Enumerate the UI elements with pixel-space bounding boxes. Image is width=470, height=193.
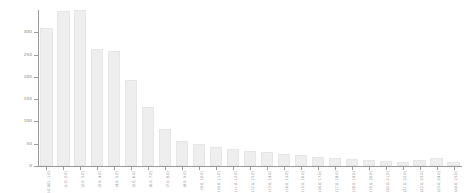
bar bbox=[108, 51, 120, 166]
x-axis-tick-label: (10.0, 11.0] bbox=[218, 171, 222, 192]
bar bbox=[312, 157, 324, 166]
bar bbox=[176, 141, 188, 166]
y-axis-tick-label: 50 bbox=[12, 142, 32, 146]
x-axis-tick-label: (17.0, 18.0] bbox=[336, 171, 340, 192]
x-axis-tick-label: (-0.001, 1.0] bbox=[48, 171, 52, 193]
y-axis-tick-label: 150 bbox=[12, 97, 32, 101]
y-axis-tick bbox=[34, 166, 38, 167]
x-axis-tick bbox=[284, 167, 285, 170]
x-axis-tick bbox=[267, 167, 268, 170]
x-axis-tick bbox=[335, 167, 336, 170]
bar bbox=[380, 161, 392, 166]
bar bbox=[40, 28, 52, 166]
x-axis-tick bbox=[46, 167, 47, 170]
x-axis-tick-label: (5.0, 6.0] bbox=[133, 171, 137, 188]
x-axis-tick-label: (19.0, 20.0] bbox=[370, 171, 374, 192]
bar bbox=[261, 152, 273, 166]
x-axis-tick bbox=[437, 167, 438, 170]
y-axis-tick-label: 250 bbox=[12, 53, 32, 57]
bar bbox=[295, 155, 307, 166]
x-axis-tick-label: (3.0, 4.0] bbox=[99, 171, 103, 188]
x-axis-tick bbox=[454, 167, 455, 170]
bar bbox=[125, 80, 137, 166]
x-axis-tick bbox=[369, 167, 370, 170]
x-axis-tick bbox=[420, 167, 421, 170]
x-axis-tick bbox=[250, 167, 251, 170]
x-axis-tick-label: (22.0, 23.0] bbox=[421, 171, 425, 192]
x-axis-tick bbox=[301, 167, 302, 170]
x-axis-tick-label: (8.0, 9.0] bbox=[184, 171, 188, 188]
x-axis-tick-label: (13.0, 14.0] bbox=[269, 171, 273, 192]
x-axis-tick-label: (16.0, 17.0] bbox=[319, 171, 323, 192]
y-axis-tick-label: 200 bbox=[12, 75, 32, 79]
bar bbox=[447, 162, 459, 166]
bar bbox=[413, 160, 425, 166]
x-axis-tick-label: (21.0, 22.0] bbox=[404, 171, 408, 192]
bar bbox=[397, 162, 409, 166]
bar-chart-figure: 050100150200250300 (-0.001, 1.0](1.0, 2.… bbox=[0, 0, 470, 193]
bar bbox=[346, 159, 358, 166]
x-axis-tick-label: (23.0, 24.0] bbox=[438, 171, 442, 192]
bar bbox=[159, 129, 171, 166]
bar bbox=[210, 147, 222, 166]
bar bbox=[244, 151, 256, 166]
bar-series bbox=[38, 10, 462, 166]
x-axis-tick bbox=[216, 167, 217, 170]
bar bbox=[142, 107, 154, 166]
bar bbox=[329, 158, 341, 166]
x-axis-tick-label: (15.0, 16.0] bbox=[302, 171, 306, 192]
x-axis-tick-label: (6.0, 7.0] bbox=[150, 171, 154, 188]
x-axis-tick-label: (12.0, 13.0] bbox=[252, 171, 256, 192]
bar bbox=[57, 11, 69, 166]
bar bbox=[74, 10, 86, 166]
bar bbox=[278, 154, 290, 166]
x-axis-tick-label: (4.0, 5.0] bbox=[116, 171, 120, 188]
bar bbox=[227, 149, 239, 166]
y-axis-tick-label: 300 bbox=[12, 30, 32, 34]
bar bbox=[91, 49, 103, 166]
x-axis-tick bbox=[352, 167, 353, 170]
x-axis-tick bbox=[403, 167, 404, 170]
x-axis-tick-label: (1.0, 2.0] bbox=[65, 171, 69, 188]
x-axis-tick-label: (14.0, 15.0] bbox=[286, 171, 290, 192]
bar bbox=[193, 144, 205, 166]
y-axis-tick-label: 100 bbox=[12, 119, 32, 123]
x-axis-tick-label: (7.0, 8.0] bbox=[167, 171, 171, 188]
x-axis-tick-label: (2.0, 3.0] bbox=[82, 171, 86, 188]
x-axis-tick bbox=[386, 167, 387, 170]
x-axis-tick-label: (11.0, 12.0] bbox=[235, 171, 239, 192]
x-axis-tick bbox=[318, 167, 319, 170]
bar bbox=[363, 160, 375, 166]
x-axis-tick bbox=[199, 167, 200, 170]
y-axis-tick-label: 0 bbox=[12, 164, 32, 168]
x-axis-tick-label: (9.0, 10.0] bbox=[201, 171, 205, 190]
x-axis-tick bbox=[233, 167, 234, 170]
bar bbox=[430, 158, 442, 166]
x-axis-tick-label: (20.0, 21.0] bbox=[387, 171, 391, 192]
x-axis-tick-label: (24.0, 25.0] bbox=[455, 171, 459, 192]
x-axis-tick-label: (18.0, 19.0] bbox=[353, 171, 357, 192]
